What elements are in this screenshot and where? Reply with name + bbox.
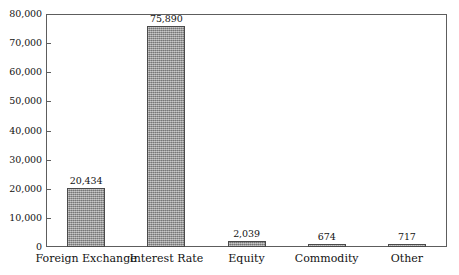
bar-rect — [67, 188, 105, 248]
x-axis: Foreign ExchangeInterest RateEquityCommo… — [0, 252, 459, 272]
bar-rect — [308, 244, 346, 247]
bar-group: 674 — [308, 228, 346, 247]
bar-chart-figure: 010,00020,00030,00040,00050,00060,00070,… — [0, 0, 459, 275]
x-tick-label: Other — [391, 252, 423, 266]
bar-value-label: 674 — [318, 232, 336, 242]
bar-group: 75,890 — [147, 10, 185, 247]
bar-value-label: 2,039 — [233, 229, 260, 239]
bar-group: 2,039 — [228, 225, 266, 247]
bar-rect — [388, 244, 426, 247]
bar-group: 717 — [388, 228, 426, 247]
bars-layer: 20,43475,8902,039674717 — [0, 0, 459, 275]
bar-value-label: 75,890 — [150, 14, 183, 24]
x-tick-label: Interest Rate — [129, 252, 203, 266]
bar-rect — [228, 241, 266, 247]
bar-rect — [147, 26, 185, 247]
bar-group: 20,434 — [67, 172, 105, 248]
x-tick-label: Equity — [228, 252, 264, 266]
x-tick-label: Commodity — [295, 252, 359, 266]
x-tick-label: Foreign Exchange — [35, 252, 136, 266]
bar-value-label: 717 — [398, 232, 416, 242]
bar-value-label: 20,434 — [70, 176, 103, 186]
